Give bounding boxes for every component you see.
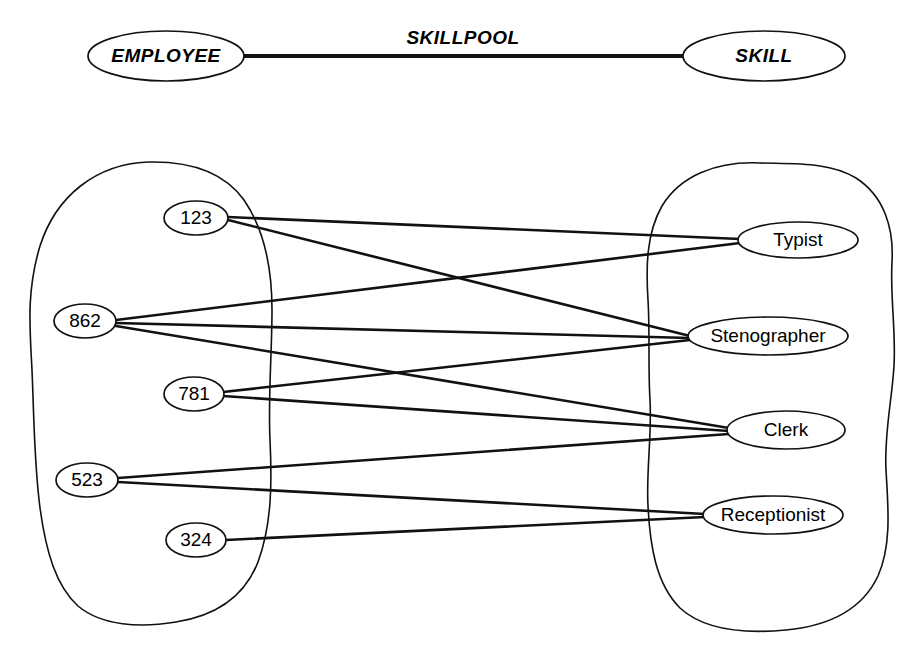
edge-523-clerk xyxy=(118,434,729,478)
employee-instances: 123 862 781 523 324 xyxy=(54,201,228,557)
entity-skill[interactable]: SKILL xyxy=(683,31,845,81)
skill-instance-typist[interactable]: Typist xyxy=(738,222,858,258)
skill-clerk-label: Clerk xyxy=(764,419,809,440)
skill-typist-label: Typist xyxy=(773,229,823,250)
edge-523-receptionist xyxy=(118,482,705,514)
edge-123-typist xyxy=(228,217,740,239)
employee-instance-123[interactable]: 123 xyxy=(164,201,228,235)
edge-781-clerk xyxy=(223,396,729,431)
employee-781-label: 781 xyxy=(178,383,210,404)
skill-entity-label: SKILL xyxy=(735,45,792,66)
employee-324-label: 324 xyxy=(180,529,212,550)
skill-stenographer-label: Stenographer xyxy=(710,325,826,346)
edge-862-clerk xyxy=(116,326,729,428)
employee-123-label: 123 xyxy=(180,207,212,228)
edge-324-receptionist xyxy=(226,517,705,540)
skill-instance-clerk[interactable]: Clerk xyxy=(727,411,845,449)
instance-edges xyxy=(116,217,740,540)
employee-instance-862[interactable]: 862 xyxy=(54,304,116,338)
skill-instances: Typist Stenographer Clerk Receptionist xyxy=(688,222,858,534)
skill-instance-stenographer[interactable]: Stenographer xyxy=(688,317,848,355)
edge-862-stenographer xyxy=(116,323,690,338)
er-instance-diagram: EMPLOYEE SKILLPOOL SKILL xyxy=(0,0,923,665)
schema-row: EMPLOYEE SKILLPOOL SKILL xyxy=(88,27,845,81)
employee-523-label: 523 xyxy=(71,469,103,490)
employee-862-label: 862 xyxy=(69,310,101,331)
entity-employee[interactable]: EMPLOYEE xyxy=(88,31,244,81)
employee-entity-label: EMPLOYEE xyxy=(111,45,221,66)
relationship-label: SKILLPOOL xyxy=(406,27,519,48)
diagram-canvas: EMPLOYEE SKILLPOOL SKILL xyxy=(0,0,923,665)
employee-instance-781[interactable]: 781 xyxy=(164,377,224,411)
employee-instance-324[interactable]: 324 xyxy=(166,523,226,557)
edge-862-typist xyxy=(116,243,740,320)
employee-instance-523[interactable]: 523 xyxy=(56,463,118,497)
skill-receptionist-label: Receptionist xyxy=(721,504,826,525)
skill-instance-receptionist[interactable]: Receptionist xyxy=(703,496,843,534)
edge-781-stenographer xyxy=(223,340,690,392)
employee-set-boundary xyxy=(30,162,272,625)
